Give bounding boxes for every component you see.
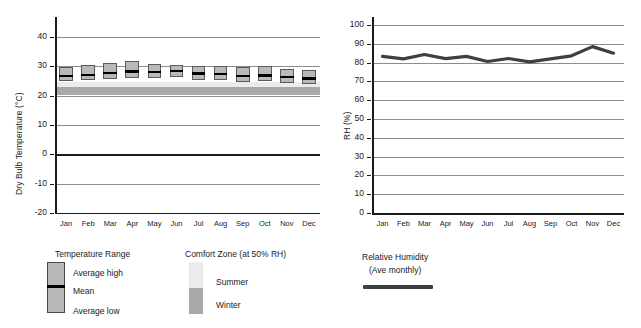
y-tick-50 [367,119,371,120]
comfort-band-winter [55,87,320,95]
y-tick-label-40: 40 [15,31,47,41]
temperature-mean-line [192,72,206,75]
legend-temperature-mean-line [47,285,65,288]
y-tick-label-90: 90 [332,38,364,48]
x-tick-label-dec: Dec [298,219,320,228]
x-tick-label-jun: Jun [477,219,498,228]
legend-temperature-item-average-low: Average low [73,306,120,316]
x-tick-label-jan: Jan [55,219,77,228]
temperature-mean-line [236,75,250,78]
chart-canvas: Dry Bulb Temperature (°C) 403020100-10-2… [0,0,641,328]
legend-humidity-title-line2: (Ave monthly) [369,265,421,275]
y-tick-10 [367,194,371,195]
gridline-0 [55,154,320,156]
gridline--10 [55,184,320,185]
temperature-mean-line [302,77,316,80]
temperature-mean-line [214,73,228,76]
y-tick-label-0: 0 [332,207,364,217]
y-tick-label-20: 20 [332,169,364,179]
x-tick-label-may: May [143,219,165,228]
y-tick-100 [367,25,371,26]
legend-humidity-title-line1: Relative Humidity [362,252,428,262]
legend-temperature-item-mean: Mean [73,286,94,296]
y-tick-label-30: 30 [332,151,364,161]
y-tick-20 [50,96,54,97]
y-tick-label-50: 50 [332,113,364,123]
y-tick-70 [367,81,371,82]
y-axis [55,17,57,214]
gridline-20 [55,96,320,97]
y-tick-label-10: 10 [15,119,47,129]
y-tick-label-0: 0 [15,148,47,158]
y-tick-0 [50,154,54,155]
x-tick-label-feb: Feb [393,219,414,228]
y-tick-90 [367,44,371,45]
x-tick-label-aug: Aug [519,219,540,228]
temperature-mean-line [258,74,272,77]
y-tick-20 [367,175,371,176]
x-tick-label-jul: Jul [188,219,210,228]
temperature-mean-line [59,75,73,78]
x-tick-label-feb: Feb [77,219,99,228]
y-tick-label-40: 40 [332,132,364,142]
x-tick-label-jun: Jun [165,219,187,228]
y-tick-label-30: 30 [15,60,47,70]
y-tick--20 [50,213,54,214]
x-tick-label-apr: Apr [435,219,456,228]
temperature-mean-line [81,74,95,77]
y-tick-60 [367,100,371,101]
x-tick-label-dec: Dec [603,219,624,228]
y-tick-30 [50,66,54,67]
legend-comfort-item-winter: Winter [216,300,241,310]
x-tick-label-sep: Sep [540,219,561,228]
y-tick-label-20: 20 [15,90,47,100]
y-tick-label-70: 70 [332,75,364,85]
y-tick-label-10: 10 [332,188,364,198]
y-tick-40 [50,37,54,38]
x-tick-label-sep: Sep [232,219,254,228]
y-tick-label-80: 80 [332,57,364,67]
x-tick-label-jul: Jul [498,219,519,228]
y-tick-30 [367,157,371,158]
y-tick-label-60: 60 [332,94,364,104]
legend-temperature-item-average-high: Average high [73,268,123,278]
x-tick-label-nov: Nov [276,219,298,228]
temperature-mean-line [148,71,162,74]
gridline-10 [55,125,320,126]
left-plot-area: 403020100-10-20JanFebMarAprMayJunJulAugS… [55,25,320,213]
x-tick-label-nov: Nov [582,219,603,228]
legend-comfort-title: Comfort Zone (at 50% RH) [185,249,286,259]
y-tick-0 [367,213,371,214]
temperature-mean-line [170,70,184,73]
x-tick-label-mar: Mar [414,219,435,228]
temperature-mean-line [280,76,294,79]
right-plot-area: 1009080706050403020100JanFebMarAprMayJun… [372,25,624,213]
y-tick-80 [367,63,371,64]
legend-comfort-item-summer: Summer [216,277,248,287]
x-tick-label-apr: Apr [121,219,143,228]
relative-humidity-chart: RH (%) 1009080706050403020100JanFebMarAp… [330,0,641,240]
x-tick-label-mar: Mar [99,219,121,228]
legend-comfort-summer-swatch [189,262,203,288]
y-tick--10 [50,184,54,185]
temperature-mean-line [125,70,139,73]
x-tick-label-oct: Oct [561,219,582,228]
x-tick-label-aug: Aug [210,219,232,228]
legend-humidity-line-swatch [363,285,433,289]
x-tick-label-may: May [456,219,477,228]
x-tick-label-oct: Oct [254,219,276,228]
temperature-mean-line [103,72,117,75]
legend-comfort-winter-swatch [189,288,203,314]
x-tick-label-jan: Jan [372,219,393,228]
y-tick-40 [367,138,371,139]
x-axis [55,213,320,214]
legend-temperature-title: Temperature Range [55,249,130,259]
gridline-40 [55,37,320,38]
y-tick-label-100: 100 [332,19,364,29]
x-axis [372,213,624,214]
y-tick-label--10: -10 [15,178,47,188]
y-tick-label--20: -20 [15,207,47,217]
y-tick-10 [50,125,54,126]
rh-line-series [372,25,624,213]
dry-bulb-temperature-chart: Dry Bulb Temperature (°C) 403020100-10-2… [0,0,330,240]
